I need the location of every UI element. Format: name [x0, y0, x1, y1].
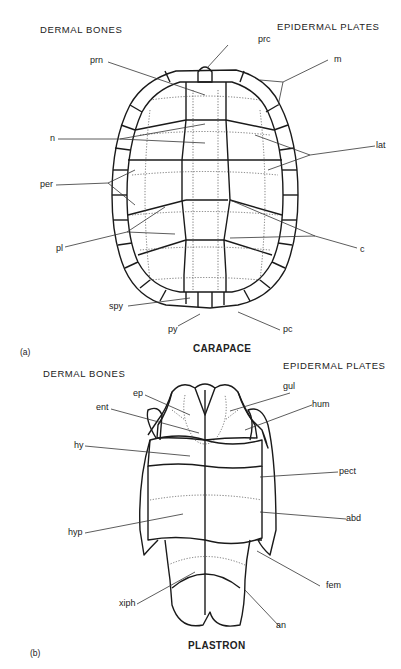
carapace-epidermal-plates-header: EPIDERMAL PLATES [277, 21, 380, 32]
label-hum: hum [312, 399, 330, 409]
label-spy: spy [109, 301, 123, 311]
label-pect: pect [339, 466, 356, 476]
carapace-title: CARAPACE [193, 343, 251, 354]
label-prn: prn [90, 55, 103, 65]
plastron-epidermal-plates-header: EPIDERMAL PLATES [283, 360, 386, 371]
label-gul: gul [283, 381, 295, 391]
label-prc: prc [258, 34, 271, 44]
label-hy: hy [74, 440, 84, 450]
label-pc: pc [283, 324, 293, 334]
carapace-diagram [0, 0, 401, 669]
panel-label-b: (b) [30, 648, 40, 658]
label-m: m [334, 54, 342, 64]
panel-label-a: (a) [20, 347, 30, 357]
label-pl: pl [56, 243, 63, 253]
label-ent: ent [96, 402, 109, 412]
label-c: c [360, 244, 365, 254]
label-n: n [50, 133, 55, 143]
label-xiph: xiph [119, 598, 136, 608]
plastron-title: PLASTRON [188, 640, 245, 651]
plastron-dermal-bones-header: DERMAL BONES [43, 368, 125, 379]
label-py: py [168, 324, 178, 334]
label-ep: ep [133, 388, 143, 398]
label-abd: abd [346, 513, 361, 523]
label-per: per [40, 179, 53, 189]
label-lat: lat [376, 140, 386, 150]
label-hyp: hyp [68, 527, 83, 537]
label-an: an [276, 620, 286, 630]
label-fem: fem [326, 580, 341, 590]
carapace-dermal-bones-header: DERMAL BONES [40, 24, 122, 35]
